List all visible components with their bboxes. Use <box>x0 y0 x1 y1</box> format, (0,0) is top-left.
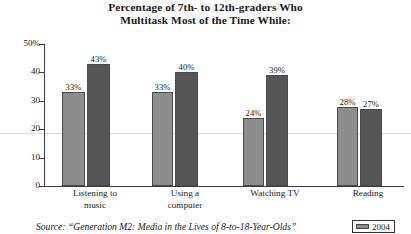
bar-group-reading: 28% 27% <box>337 44 403 186</box>
bar-value-using-a-computer-2004: 40% <box>179 62 195 72</box>
y-tick-label-10: 10 <box>31 151 40 163</box>
legend-swatch-2004 <box>356 224 369 229</box>
bar-reading-2004[interactable]: 27% <box>360 109 382 186</box>
x-label-using-a-computer-line-1: Using a <box>144 188 226 200</box>
x-label-listening-to-music-line-2: music <box>54 200 136 212</box>
bar-watching-tv-2004[interactable]: 39% <box>266 75 288 186</box>
bar-value-listening-to-music-2004: 43% <box>91 54 107 64</box>
y-tick-label-50: 50% <box>24 37 41 49</box>
plot-area: 50% 40 30 20 10 0 33% 43% 33% <box>44 44 404 186</box>
y-tick-label-0: 0 <box>36 179 41 191</box>
bars-layer: 33% 43% 33% 40% 24% 39% <box>44 44 404 186</box>
bar-group-using-a-computer: 33% 40% <box>152 44 218 186</box>
bar-value-listening-to-music-1999: 33% <box>66 82 82 92</box>
bar-watching-tv-1999[interactable]: 24% <box>243 118 264 186</box>
x-label-watching-tv: Watching TV <box>234 188 316 200</box>
x-axis-category-labels: Listening to music Using a computer Watc… <box>44 188 404 214</box>
y-tick-label-30: 30 <box>31 94 40 106</box>
x-label-listening-to-music: Listening to music <box>54 188 136 211</box>
x-label-listening-to-music-line-1: Listening to <box>54 188 136 200</box>
bar-group-listening-to-music: 33% 43% <box>62 44 128 186</box>
bar-listening-to-music-1999[interactable]: 33% <box>62 92 85 186</box>
y-tick-label-40: 40 <box>31 65 40 77</box>
chart-title: Percentage of 7th- to 12th-graders Who M… <box>0 1 411 27</box>
chart-title-line-2: Multitask Most of the Time While: <box>0 14 411 27</box>
bar-listening-to-music-2004[interactable]: 43% <box>87 64 110 186</box>
y-tick-label-20: 20 <box>31 122 40 134</box>
bar-reading-1999[interactable]: 28% <box>337 107 358 187</box>
bar-value-using-a-computer-1999: 33% <box>155 82 171 92</box>
chart-title-line-1: Percentage of 7th- to 12th-graders Who <box>0 1 411 14</box>
x-label-reading-line-1: Reading <box>327 188 409 200</box>
legend-label-2004: 2004 <box>372 222 390 232</box>
x-label-reading: Reading <box>327 188 409 200</box>
bar-group-watching-tv: 24% 39% <box>243 44 309 186</box>
x-label-watching-tv-line-1: Watching TV <box>234 188 316 200</box>
legend[interactable]: 2004 <box>352 220 395 233</box>
bar-using-a-computer-2004[interactable]: 40% <box>175 72 198 186</box>
bar-value-reading-2004: 27% <box>363 99 379 109</box>
x-axis-line <box>44 186 404 187</box>
bar-value-watching-tv-1999: 24% <box>246 108 262 118</box>
source-note: Source: “Generation M2: Media in the Liv… <box>36 221 296 233</box>
x-label-using-a-computer: Using a computer <box>144 188 226 211</box>
x-label-using-a-computer-line-2: computer <box>144 200 226 212</box>
bar-value-reading-1999: 28% <box>340 97 356 107</box>
bar-using-a-computer-1999[interactable]: 33% <box>152 92 173 186</box>
bar-value-watching-tv-2004: 39% <box>269 65 285 75</box>
